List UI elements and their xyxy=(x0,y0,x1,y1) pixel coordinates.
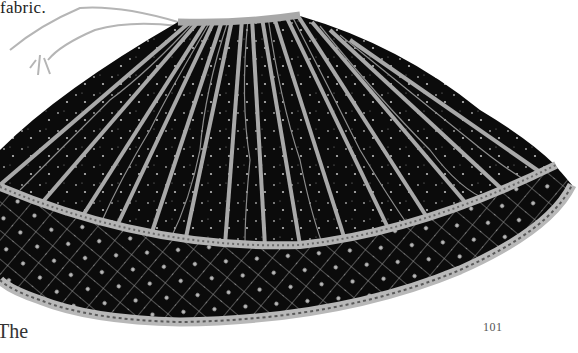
skirt-photograph xyxy=(0,0,578,353)
